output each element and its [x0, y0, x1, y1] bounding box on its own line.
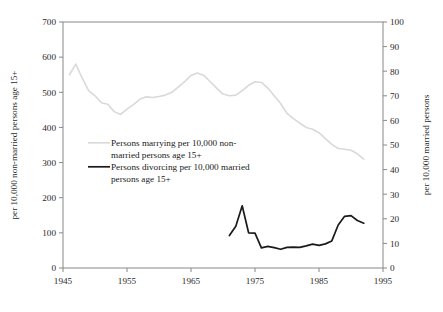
y-axis-right-tick-label: 30 — [390, 190, 400, 200]
legend-label-divorcing: Persons divorcing per 10,000 married — [111, 162, 250, 172]
y-axis-left-tick-label: 100 — [42, 228, 56, 238]
y-axis-right-tick-label: 100 — [390, 17, 404, 27]
x-axis-tick-label: 1995 — [374, 276, 393, 286]
y-axis-right-tick-label: 10 — [390, 239, 400, 249]
y-axis-right-tick-label: 50 — [390, 140, 400, 150]
y-axis-right-tick-label: 90 — [390, 42, 400, 52]
x-axis-tick-label: 1955 — [118, 276, 137, 286]
y-axis-right-tick-label: 40 — [390, 165, 400, 175]
chart-figure: 0100200300400500600700010203040506070809… — [0, 0, 443, 312]
y-axis-right-tick-label: 0 — [390, 263, 395, 273]
series-line-divorcing — [229, 206, 363, 250]
y-axis-right-tick-label: 70 — [390, 91, 400, 101]
y-axis-left-title: per 10,000 non-married persons age 15+ — [9, 70, 19, 219]
y-axis-left-tick-label: 500 — [42, 88, 56, 98]
y-axis-right-tick-label: 80 — [390, 67, 400, 77]
x-axis-tick-label: 1965 — [182, 276, 201, 286]
y-axis-left-tick-label: 200 — [42, 193, 56, 203]
x-axis-tick-label: 1945 — [54, 276, 73, 286]
x-axis-tick-label: 1985 — [310, 276, 329, 286]
y-axis-left: 0100200300400500600700 — [42, 17, 63, 273]
y-axis-left-tick-label: 700 — [42, 17, 56, 27]
chart-legend: Persons marrying per 10,000 non-married … — [88, 138, 250, 184]
y-axis-left-tick-label: 600 — [42, 52, 56, 62]
x-axis-tick-label: 1975 — [246, 276, 265, 286]
y-axis-right-title: per 10,000 married persons — [421, 94, 431, 195]
y-axis-left-tick-label: 0 — [51, 263, 56, 273]
y-axis-right: 0102030405060708090100 — [383, 17, 404, 273]
legend-label-marrying: Persons marrying per 10,000 non- — [111, 138, 236, 148]
line-chart: 0100200300400500600700010203040506070809… — [0, 0, 443, 312]
x-axis: 194519551965197519851995 — [54, 268, 393, 286]
legend-label-marrying: married persons age 15+ — [111, 150, 202, 160]
y-axis-left-tick-label: 400 — [42, 123, 56, 133]
y-axis-right-tick-label: 60 — [390, 116, 400, 126]
y-axis-left-tick-label: 300 — [42, 158, 56, 168]
legend-label-divorcing: persons age 15+ — [111, 174, 171, 184]
y-axis-right-tick-label: 20 — [390, 214, 400, 224]
